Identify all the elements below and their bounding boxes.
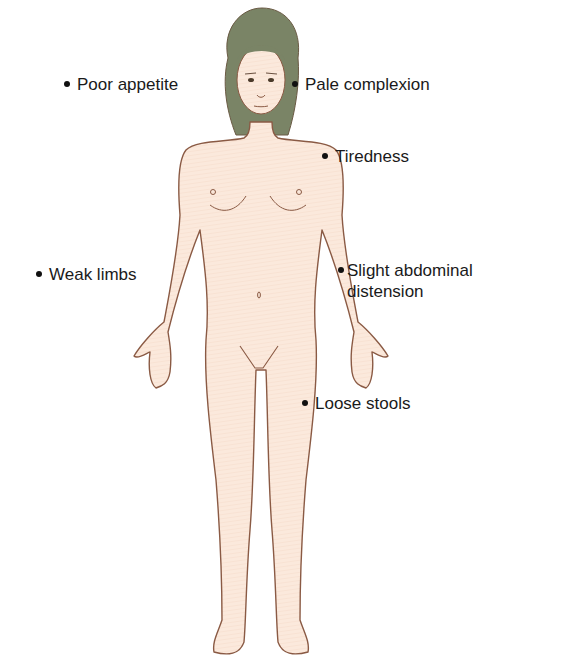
bullet-icon [292,81,298,87]
bullet-icon [36,271,42,277]
body-silhouette [134,122,388,654]
label-tiredness: Tiredness [322,146,409,167]
label-slight-abdominal-distension: Slight abdominal distension [338,260,473,302]
body-illustration [0,0,563,669]
bullet-icon [322,153,328,159]
label-loose-stools: Loose stools [302,393,410,414]
bullet-icon [64,81,70,87]
label-weak-limbs: Weak limbs [36,264,137,285]
label-poor-appetite: Poor appetite [64,74,178,95]
face [237,46,285,114]
label-pale-complexion: Pale complexion [292,74,430,95]
bullet-icon [302,400,308,406]
bullet-icon [338,267,344,273]
